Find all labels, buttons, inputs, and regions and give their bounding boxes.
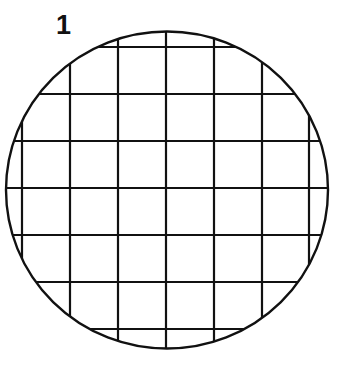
circle-grid-diagram (0, 0, 348, 382)
